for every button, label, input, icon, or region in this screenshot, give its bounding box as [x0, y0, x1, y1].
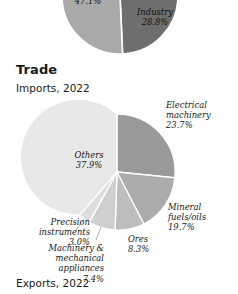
label-ores: Ores 8.3% — [128, 234, 178, 254]
label-electrical-machinery: Electrical machinery 23.7% — [166, 100, 236, 131]
label-others: Others 37.9% — [62, 150, 116, 170]
subtitle-exports: Exports, 2022 — [16, 277, 89, 289]
label-mineral-fuels: Mineral fuels/oils 19.7% — [168, 202, 238, 233]
label-precision-instruments: Precision instruments 3.0% — [0, 217, 90, 248]
trade-infographic-page: Industry 28.8% 47.1% Trade Imports, 2022… — [0, 0, 238, 294]
leader-line-machinery — [96, 227, 101, 240]
